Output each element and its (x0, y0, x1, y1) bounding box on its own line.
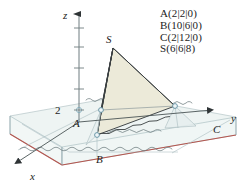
z-axis-label: z (62, 9, 68, 21)
y-axis-label: y (230, 112, 236, 124)
x-axis-label: x (29, 170, 35, 182)
coordinate-line-b: B(10|6|0) (160, 20, 202, 32)
point-label-b: B (96, 153, 103, 165)
vertex-marker-a (99, 108, 104, 113)
point-label-c: C (213, 123, 221, 135)
pyramid-diagram-svg: z y x 2 S A B C (0, 0, 248, 190)
point-label-s: S (106, 33, 112, 45)
coordinate-line-s: S(6|6|8) (160, 43, 202, 55)
vertex-marker-c (173, 104, 178, 109)
z-axis-tick-label-2: 2 (55, 104, 61, 116)
coordinate-list: A(2|2|0) B(10|6|0) C(2|12|0) S(6|6|8) (160, 8, 202, 55)
vertex-marker-b (95, 133, 100, 138)
figure-container: z y x 2 S A B C A(2|2|0) B(10|6|0) C(2|1… (0, 0, 248, 190)
point-label-a: A (72, 117, 80, 129)
